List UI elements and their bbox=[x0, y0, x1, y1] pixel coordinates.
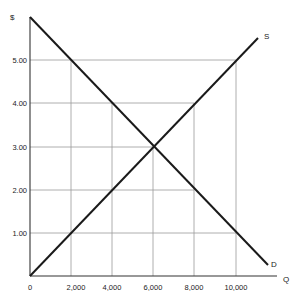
supply-demand-chart: $ Q S D 5.00 4.00 3.00 2.00 1.00 0 2,000… bbox=[0, 0, 300, 298]
x-tick-2000: 2,000 bbox=[67, 283, 86, 292]
x-tick-6000: 6,000 bbox=[144, 283, 163, 292]
y-tick-2: 2.00 bbox=[12, 186, 27, 195]
y-axis-label: $ bbox=[10, 13, 15, 22]
x-tick-labels: 0 2,000 4,000 6,000 8,000 10,000 bbox=[28, 283, 248, 292]
supply-curve bbox=[30, 38, 258, 276]
x-tick-0: 0 bbox=[28, 283, 32, 292]
y-tick-4: 4.00 bbox=[12, 99, 27, 108]
y-tick-1: 1.00 bbox=[12, 229, 27, 238]
y-tick-3: 3.00 bbox=[12, 143, 27, 152]
x-axis-label: Q bbox=[283, 275, 289, 284]
y-tick-labels: 5.00 4.00 3.00 2.00 1.00 bbox=[12, 56, 27, 238]
demand-curve bbox=[30, 17, 268, 265]
x-tick-4000: 4,000 bbox=[103, 283, 122, 292]
supply-label: S bbox=[264, 32, 269, 41]
x-tick-8000: 8,000 bbox=[185, 283, 204, 292]
x-tick-10000: 10,000 bbox=[225, 283, 248, 292]
y-tick-5: 5.00 bbox=[12, 56, 27, 65]
demand-label: D bbox=[271, 260, 277, 269]
